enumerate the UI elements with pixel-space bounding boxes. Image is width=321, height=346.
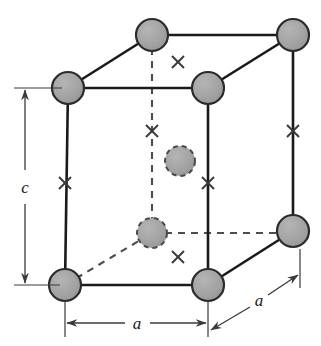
lattice-a-bottom-label: a [133, 314, 142, 333]
crystal-unit-cell-figure: c a a [0, 0, 321, 346]
lattice-a-depth-label: a [255, 291, 264, 310]
corner-far-top-right [277, 19, 309, 51]
dimension-a-bottom-group: a [65, 301, 208, 337]
cross-bottom-face [172, 251, 184, 263]
corner-front-bottom-right [192, 269, 224, 301]
cross-left-edge [59, 177, 71, 189]
interior-atom-upper [165, 146, 195, 176]
cross-top-face [172, 56, 184, 68]
interior-atom-lower [137, 218, 167, 248]
dimension-c-group: c [14, 88, 62, 285]
corner-back-top-right [136, 19, 168, 51]
corner-front-top-right [192, 72, 224, 104]
interior-atoms-group [137, 146, 195, 248]
lattice-c-label: c [21, 178, 29, 197]
a-depth-arrow-upper [268, 275, 298, 295]
a-depth-arrow-lower [211, 307, 250, 330]
corner-far-bottom-right [277, 215, 309, 247]
unit-cell-diagram: c a a [0, 0, 321, 346]
